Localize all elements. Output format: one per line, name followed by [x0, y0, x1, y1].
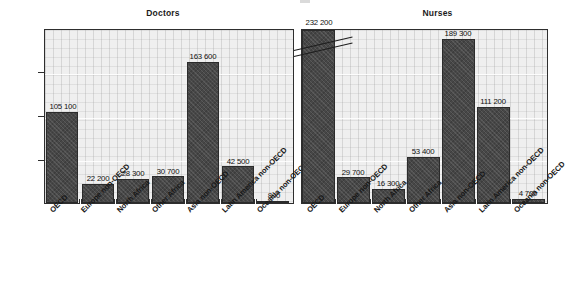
bar-value-nurses-latin-america-non-oecd: 111 200 — [475, 97, 511, 106]
bar-value-doctors-asia-non-oecd: 163 600 — [185, 52, 221, 61]
bar-nurses-oecd — [302, 30, 335, 203]
gridline-100000 — [45, 118, 293, 119]
x-tick-3 — [405, 199, 408, 204]
gridline-150000 — [302, 74, 547, 75]
x-tick-1 — [79, 199, 82, 204]
chart-panel-nurses: Nurses — [299, 0, 558, 294]
bar-doctors-oecd — [46, 112, 78, 203]
x-tick-2 — [114, 199, 117, 204]
bar-value-doctors-other-africa: 30 700 — [150, 167, 186, 176]
bar-value-doctors-latin-america-non-oecd: 42 500 — [220, 157, 256, 166]
gridline-100000 — [302, 118, 547, 119]
x-tick-5 — [219, 199, 222, 204]
x-tick-4 — [440, 199, 443, 204]
x-tick-2 — [370, 199, 373, 204]
x-tick-1 — [335, 199, 338, 204]
bar-value-nurses-europe-non-oecd: 29 700 — [335, 168, 371, 177]
gridline-150000 — [45, 74, 293, 75]
x-tick-6 — [510, 199, 513, 204]
panel-title-doctors: Doctors — [0, 8, 296, 18]
x-tick-3 — [149, 199, 152, 204]
panel-title-nurses: Nurses — [299, 8, 558, 18]
bar-value-nurses-asia-non-oecd: 189 300 — [440, 29, 476, 38]
bar-value-nurses-oecd: 232 200 — [298, 18, 340, 27]
chart-panel-doctors: Doctors 200 000 150 000 100 000 50 000 0 — [0, 0, 296, 294]
bar-value-nurses-other-africa: 53 400 — [405, 147, 441, 156]
x-tick-5 — [475, 199, 478, 204]
x-tick-4 — [184, 199, 187, 204]
bar-value-doctors-oecd: 105 100 — [44, 102, 82, 111]
